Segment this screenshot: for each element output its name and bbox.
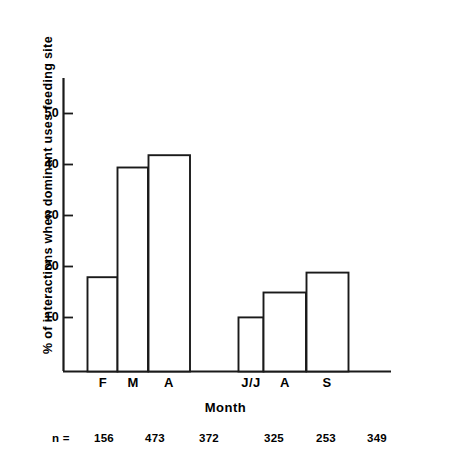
sample-size-a-1: 372: [187, 432, 231, 444]
y-tick-label-50: 50: [33, 106, 59, 120]
bar-a-1: [149, 155, 191, 371]
sample-size-prefix: n =: [52, 432, 70, 444]
y-tick-label-20: 20: [33, 259, 59, 273]
y-tick-label-30: 30: [33, 208, 59, 222]
bar-m: [118, 168, 149, 372]
bar-a-2: [264, 293, 307, 372]
chart-figure: % of interactions when dominant uses fee…: [0, 0, 451, 460]
bar-chart-svg: [0, 0, 451, 460]
sample-size-m: 473: [133, 432, 177, 444]
bar-f: [88, 277, 118, 371]
plot-area: 50 40 30 20 10 F M A J/J A S Month n = 1…: [0, 0, 451, 460]
x-axis-title: Month: [0, 400, 451, 415]
x-tick-label-s: S: [306, 375, 348, 390]
bar-series: [88, 155, 349, 371]
sample-size-s: 349: [355, 432, 399, 444]
sample-size-jj: 325: [252, 432, 296, 444]
y-axis-ticks: [64, 114, 73, 318]
x-tick-label-a-2: A: [264, 375, 306, 390]
bar-jj: [239, 317, 264, 371]
sample-size-a-2: 253: [304, 432, 348, 444]
y-tick-label-10: 10: [33, 310, 59, 324]
x-tick-label-a-1: A: [148, 375, 190, 390]
y-tick-label-40: 40: [33, 157, 59, 171]
sample-size-f: 156: [82, 432, 126, 444]
bar-s: [307, 273, 349, 372]
